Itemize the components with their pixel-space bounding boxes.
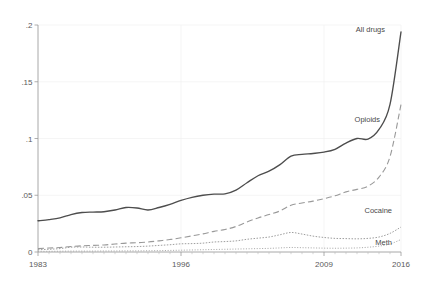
x-axis-ticks: 1983199620092016 (29, 252, 410, 269)
series-lines (38, 32, 401, 252)
drug-overdose-mortality-chart: 0.05.1.15.2 1983199620092016 All drugsOp… (0, 0, 428, 287)
gridlines (38, 25, 401, 252)
series-label-all-drugs: All drugs (356, 25, 385, 34)
x-tick-label: 2016 (392, 260, 410, 269)
series-label-opioids: Opioids (355, 115, 381, 124)
chart-canvas: 0.05.1.15.2 1983199620092016 All drugsOp… (0, 0, 428, 287)
x-tick-label: 2009 (315, 260, 333, 269)
series-line-cocaine (38, 227, 401, 250)
x-tick-label: 1996 (172, 260, 190, 269)
x-tick-label: 1983 (29, 260, 47, 269)
series-label-cocaine: Cocaine (364, 206, 392, 215)
y-axis-ticks: 0.05.1.15.2 (21, 21, 38, 257)
y-tick-label: .1 (26, 135, 33, 144)
y-tick-label: .05 (21, 191, 33, 200)
series-line-meth (38, 240, 401, 252)
y-tick-label: .2 (26, 21, 33, 30)
y-tick-label: .15 (21, 78, 33, 87)
series-label-meth: Meth (375, 238, 392, 247)
series-line-opioids (38, 104, 401, 248)
y-tick-label: 0 (28, 248, 33, 257)
series-line-all-drugs (38, 32, 401, 221)
